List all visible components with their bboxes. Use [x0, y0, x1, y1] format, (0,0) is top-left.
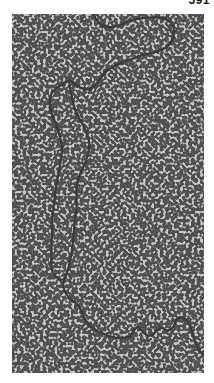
page-number: 591: [188, 0, 210, 7]
micrograph-svg: [12, 14, 204, 373]
particle-specks: [12, 14, 204, 373]
electron-micrograph: [12, 14, 204, 373]
